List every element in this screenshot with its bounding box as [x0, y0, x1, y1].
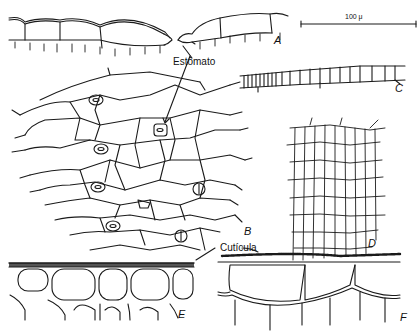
cuticle-label: Cutícula	[220, 242, 257, 253]
scale-bar-label: 100 μ	[345, 13, 363, 20]
scale-bar	[301, 21, 416, 27]
panel-e-section	[9, 263, 194, 320]
panel-b-surface	[12, 56, 252, 250]
panel-f-section	[218, 248, 400, 330]
stomata-group	[89, 95, 205, 242]
stomata-label: Estômato	[173, 56, 215, 67]
panel-label-d: D	[368, 237, 376, 249]
panel-c-strip	[240, 66, 405, 92]
botanical-diagram	[0, 0, 418, 334]
panel-label-b: B	[244, 225, 251, 237]
panel-label-e: E	[178, 308, 185, 320]
panel-label-c: C	[395, 82, 403, 94]
panel-a-section	[9, 13, 288, 56]
panel-label-f: F	[400, 311, 407, 323]
panel-label-a: A	[274, 34, 281, 46]
